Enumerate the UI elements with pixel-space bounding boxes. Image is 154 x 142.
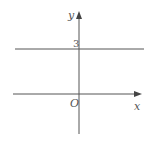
coordinate-diagram: y 3 O x xyxy=(0,0,154,142)
diagram-svg: y 3 O x xyxy=(0,0,154,142)
y-axis-label: y xyxy=(67,9,75,22)
x-axis-arrow-icon xyxy=(134,91,142,97)
origin-label: O xyxy=(70,97,79,110)
x-axis-label: x xyxy=(134,100,141,113)
y-axis-arrow-icon xyxy=(76,11,82,19)
intercept-label: 3 xyxy=(73,38,79,49)
